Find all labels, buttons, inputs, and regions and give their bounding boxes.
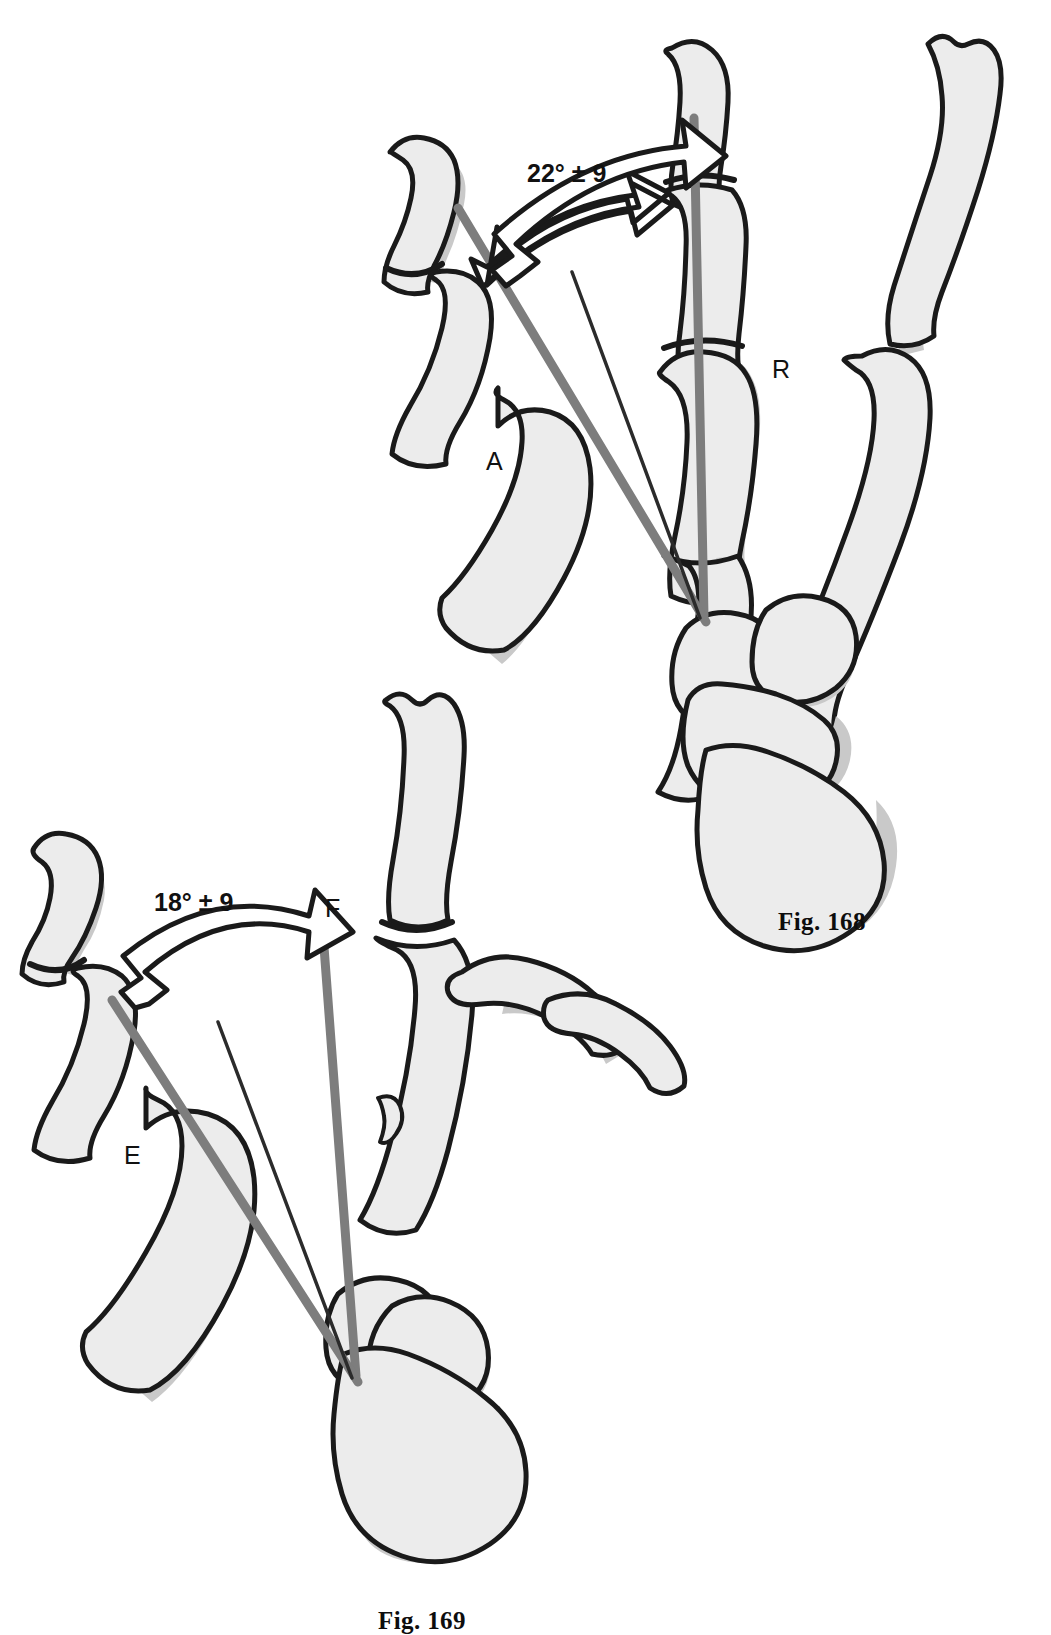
axis-label-r: R — [772, 355, 790, 384]
bone-index-phalanx — [888, 36, 1001, 345]
figure-caption-168: Fig. 168 — [778, 908, 866, 936]
axis-label-f: F — [325, 894, 340, 923]
angle-label-upper: 22° ± 9 — [527, 159, 606, 188]
bone-thumb-metacarpal-u — [440, 388, 591, 651]
panel-upper — [384, 36, 1001, 950]
bone-thumb-mc-l — [82, 1088, 254, 1391]
axis-label-a: A — [486, 447, 503, 476]
figure-caption-169: Fig. 169 — [378, 1607, 466, 1635]
panel-lower — [22, 694, 685, 1563]
angle-label-lower: 18° ± 9 — [154, 888, 233, 917]
bone-thumb-proximal-u — [392, 271, 492, 466]
center-finger-lower — [360, 694, 473, 1233]
bone-capitate-u — [752, 596, 857, 703]
right-finger-lower — [447, 957, 684, 1094]
carpus-group-upper — [672, 596, 897, 951]
bone-thumb-prox-l — [34, 966, 136, 1161]
bone-center-phalanx-l — [385, 694, 465, 927]
axis-label-e: E — [124, 1141, 141, 1170]
bone-right-small2-l — [544, 994, 685, 1094]
bone-thumb-distal-l — [22, 833, 102, 984]
